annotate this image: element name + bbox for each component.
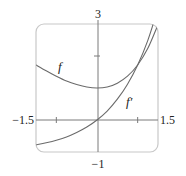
axis-ticks bbox=[56, 56, 137, 123]
y-min-label: −1 bbox=[92, 157, 105, 171]
curve-f-prime bbox=[36, 9, 158, 145]
legend-f-label: f bbox=[58, 59, 64, 74]
legend-f-prime-label: f′ bbox=[126, 94, 133, 109]
graph-canvas: 3 −1 −1.5 1.5 f f′ bbox=[0, 0, 186, 176]
x-min-label: −1.5 bbox=[12, 113, 34, 127]
x-max-label: 1.5 bbox=[160, 113, 175, 127]
y-max-label: 3 bbox=[95, 7, 101, 21]
